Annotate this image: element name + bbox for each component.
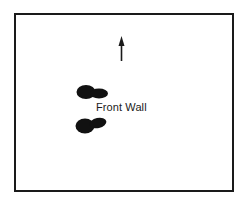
direction-arrow-icon (119, 36, 125, 61)
footprint-lower-icon (76, 116, 108, 133)
diagram-graphics (0, 0, 243, 197)
front-wall-label: Front Wall (96, 101, 147, 113)
footprint-upper-icon (77, 85, 109, 99)
